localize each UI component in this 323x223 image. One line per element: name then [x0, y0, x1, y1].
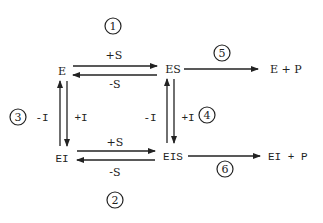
label-minus-i-left: -I: [35, 112, 48, 124]
node-eis: EIS: [163, 151, 183, 163]
node-es: ES: [165, 63, 181, 76]
step-1-label: 1: [110, 20, 117, 33]
label-minus-i-right: -I: [143, 112, 156, 124]
step-6-badge: 6: [217, 161, 233, 177]
label-plus-s-bottom: +S: [107, 136, 124, 149]
product-e-plus-p: E + P: [270, 63, 302, 76]
label-plus-i-right: +I: [181, 112, 194, 124]
node-ei: EI: [55, 153, 68, 165]
node-e: E: [58, 65, 66, 78]
step-5-label: 5: [219, 47, 226, 60]
step-4-badge: 4: [199, 107, 215, 123]
step-3-label: 3: [15, 111, 22, 124]
label-plus-s-top: +S: [106, 49, 123, 62]
step-5-badge: 5: [214, 45, 230, 61]
label-minus-s-bottom: -S: [109, 166, 120, 179]
step-6-label: 6: [222, 163, 229, 176]
step-1-badge: 1: [105, 18, 121, 34]
step-3-badge: 3: [10, 109, 26, 125]
step-2-badge: 2: [107, 192, 123, 208]
enzyme-inhibition-diagram: 1 E ES EI EIS +S -S 5 E + P 3 -I +I -I +…: [0, 0, 323, 223]
step-4-label: 4: [204, 109, 211, 122]
label-plus-i-left: +I: [74, 112, 87, 124]
product-ei-plus-p: EI + P: [268, 151, 308, 163]
label-minus-s-top: -S: [109, 78, 120, 91]
step-2-label: 2: [112, 194, 119, 207]
